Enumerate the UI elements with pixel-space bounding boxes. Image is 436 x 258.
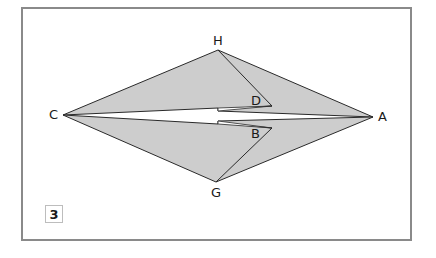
upper-flap [63,50,373,117]
step-number: 3 [49,207,58,222]
step-number-badge: 3 [45,205,63,223]
label-d: D [251,94,261,107]
label-h: H [213,34,223,47]
label-b: B [251,127,260,140]
label-a: A [378,110,387,123]
label-c: C [49,108,58,121]
lower-flap [63,115,373,182]
label-g: G [211,186,221,199]
